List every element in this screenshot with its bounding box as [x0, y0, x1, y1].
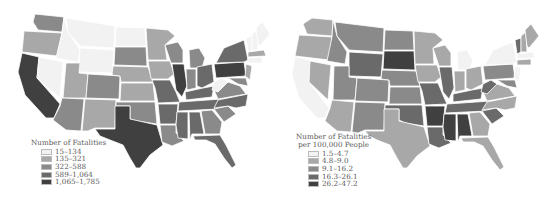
state-ia [415, 65, 441, 82]
legend-title-line2: per 100,000 People [296, 141, 371, 149]
legend-swatch [41, 156, 52, 162]
state-wa [33, 14, 64, 32]
state-nd [115, 27, 146, 46]
legend-title: Number of Fatalities [31, 139, 106, 147]
legend-swatch [41, 179, 52, 185]
state-vt [515, 38, 521, 54]
legend-swatch [41, 164, 52, 170]
state-or [295, 35, 332, 60]
state-me [256, 22, 270, 46]
state-ia [148, 61, 174, 79]
state-ny [485, 42, 517, 65]
state-ct [517, 59, 531, 65]
state-co [86, 74, 120, 99]
state-in [186, 69, 196, 90]
state-sd [383, 51, 415, 70]
state-ms [176, 112, 188, 139]
state-pa [483, 64, 515, 80]
state-mi [457, 50, 473, 70]
state-or [22, 31, 62, 56]
state-me [525, 24, 539, 48]
state-fl [193, 135, 236, 168]
legend-item: 1,065–1,785 [41, 178, 106, 186]
state-in [454, 71, 465, 92]
legend-label: 1,065–1,785 [55, 178, 100, 186]
state-wi [433, 45, 451, 66]
state-vt [246, 36, 252, 52]
state-oh [466, 66, 483, 90]
state-ar [158, 104, 178, 124]
state-co [355, 78, 389, 102]
state-mi [189, 48, 205, 68]
legend-item: 26.2–47.2 [308, 180, 371, 188]
fatalities-per-capita-map: Number of Fatalities per 100,000 People … [277, 0, 557, 201]
legend-swatch [41, 149, 52, 155]
legend-label: 26.2–47.2 [322, 180, 358, 188]
state-wi [165, 42, 183, 63]
fatalities-count-map: Number of Fatalities 15–134 135–321 322–… [0, 0, 280, 201]
state-ks [120, 83, 155, 101]
state-sd [114, 47, 147, 66]
state-ct [248, 57, 262, 63]
state-ms [443, 114, 456, 141]
state-ny [216, 40, 248, 63]
state-wy [79, 48, 114, 73]
legend-swatch [308, 158, 319, 164]
state-nd [384, 30, 414, 50]
legend-swatch [308, 166, 319, 172]
state-az [325, 100, 354, 132]
legend-swatch [41, 172, 52, 178]
state-ar [425, 106, 445, 126]
state-wa [303, 18, 333, 36]
legend-fatalities-per-capita: Number of Fatalities per 100,000 People … [296, 133, 371, 188]
legend-swatch [308, 174, 319, 180]
legend-swatch [308, 181, 319, 187]
state-pa [214, 62, 246, 78]
state-nm [82, 99, 116, 131]
legend-swatch [308, 151, 319, 157]
state-fl [461, 137, 504, 170]
state-nm [352, 102, 385, 133]
state-oh [197, 64, 214, 88]
state-wy [349, 52, 383, 77]
legend-fatalities-count: Number of Fatalities 15–134 135–321 322–… [31, 139, 106, 186]
state-ks [389, 87, 422, 104]
